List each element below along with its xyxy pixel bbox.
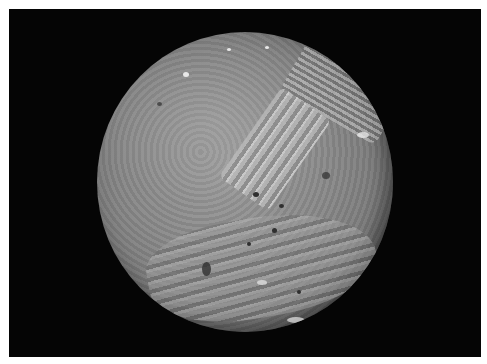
dark-spot (157, 102, 162, 106)
dark-spot (247, 242, 251, 246)
dark-spot (253, 192, 259, 197)
bright-crater (183, 72, 189, 77)
dark-spot (322, 172, 330, 179)
bright-crater (227, 48, 231, 51)
dark-spot (202, 262, 211, 276)
dark-spot (279, 204, 284, 208)
dark-spot (272, 228, 277, 233)
photo-frame (9, 9, 481, 357)
banded-terrain (140, 198, 384, 332)
bright-patch (257, 280, 267, 285)
bright-patch (357, 132, 369, 138)
bright-crater (265, 46, 269, 49)
moon-disc (97, 32, 393, 332)
dark-spot (297, 290, 301, 294)
bright-patch (287, 317, 305, 323)
